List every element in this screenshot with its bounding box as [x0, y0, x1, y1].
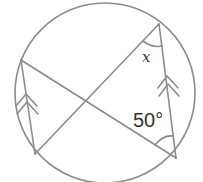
angle-label-50: 50° — [133, 109, 163, 131]
angle-arc-x — [143, 41, 162, 46]
circle-theorem-diagram: x 50° — [0, 0, 203, 182]
chord-ac — [35, 24, 159, 154]
angle-arc-50 — [155, 136, 173, 145]
angle-label-x: x — [142, 48, 151, 66]
